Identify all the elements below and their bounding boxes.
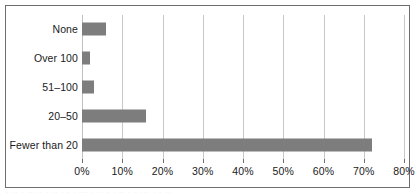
- x-tick-label: 0%: [74, 165, 89, 177]
- scan-bleed-text: · ·· · ··· · · ·· · · · ··· · ·· · · ·· …: [6, 189, 413, 196]
- bar-row: None: [82, 15, 404, 44]
- bar: [82, 138, 372, 151]
- bar: [82, 52, 90, 65]
- x-tick-label: 70%: [353, 165, 374, 177]
- x-tick: [203, 159, 204, 163]
- x-tick: [404, 159, 405, 163]
- x-tick: [122, 159, 123, 163]
- bar-row: Fewer than 20: [82, 130, 404, 159]
- x-tick-label: 30%: [192, 165, 213, 177]
- x-tick-label: 10%: [112, 165, 133, 177]
- x-tick-label: 50%: [273, 165, 294, 177]
- x-tick-label: 60%: [313, 165, 334, 177]
- x-tick: [163, 159, 164, 163]
- chart-frame: NoneOver 10051–10020–50Fewer than 20 0%1…: [5, 5, 410, 188]
- bar-row: 20–50: [82, 101, 404, 130]
- category-label: Fewer than 20: [10, 139, 78, 151]
- x-tick-label: 80%: [393, 165, 414, 177]
- category-label: Over 100: [34, 52, 78, 64]
- x-tick-label: 40%: [232, 165, 253, 177]
- x-tick: [243, 159, 244, 163]
- bar: [82, 80, 94, 93]
- bar-row: 51–100: [82, 73, 404, 102]
- bar-row: Over 100: [82, 44, 404, 73]
- bar-chart-figure: NoneOver 10051–10020–50Fewer than 20 0%1…: [0, 0, 419, 196]
- category-label: 51–100: [42, 81, 78, 93]
- category-label: None: [52, 23, 78, 35]
- gridline-80%: [404, 15, 405, 159]
- bar: [82, 23, 106, 36]
- bar: [82, 109, 146, 122]
- x-tick: [364, 159, 365, 163]
- category-label: 20–50: [48, 110, 78, 122]
- x-tick-label: 20%: [152, 165, 173, 177]
- x-axis: 0%10%20%30%40%50%60%70%80%: [82, 159, 404, 185]
- x-tick: [82, 159, 83, 163]
- plot-area: NoneOver 10051–10020–50Fewer than 20: [82, 15, 404, 159]
- x-tick: [324, 159, 325, 163]
- x-tick: [283, 159, 284, 163]
